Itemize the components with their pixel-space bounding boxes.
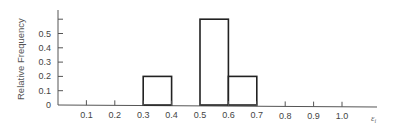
y-tick-label: 0.1: [38, 86, 51, 96]
y-tick-label: 0: [46, 100, 51, 110]
x-tick-label: 0.6: [222, 110, 235, 120]
histogram-bar: [143, 76, 171, 105]
x-tick-label: 0.4: [165, 110, 178, 120]
x-tick-label: 0.2: [109, 110, 122, 120]
x-tick-label: 0.9: [307, 111, 320, 121]
bars: [143, 19, 257, 105]
x-tick-label: 1.0: [336, 111, 349, 121]
y-tick-label: 0.2: [38, 71, 51, 81]
x-tick-label: 0.1: [80, 110, 93, 120]
x-axis-label: εi: [371, 113, 377, 124]
y-tick-label: 0.3: [38, 57, 51, 67]
histogram-chart: 00.10.20.30.40.5 0.10.20.30.40.50.60.70.…: [0, 0, 397, 130]
histogram-bar: [200, 19, 228, 105]
y-axis-ticks: 00.10.20.30.40.5: [38, 19, 63, 110]
y-tick-label: 0.4: [38, 43, 51, 53]
y-tick-label: 0.5: [38, 29, 51, 39]
x-tick-label: 0.5: [194, 110, 207, 120]
y-axis-label: Relative Frequency: [15, 18, 26, 100]
x-tick-label: 0.7: [251, 110, 264, 120]
x-tick-label: 0.3: [137, 110, 150, 120]
histogram-bar: [228, 76, 256, 105]
x-tick-label: 0.8: [279, 111, 292, 121]
